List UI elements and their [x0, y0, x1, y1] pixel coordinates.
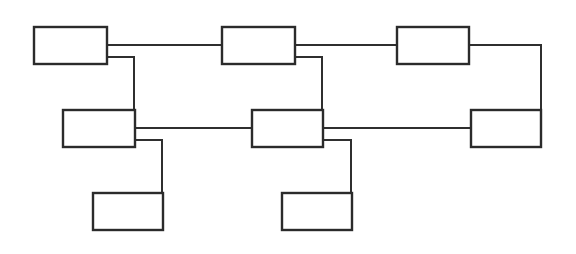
node-rect — [282, 193, 352, 230]
connector-d-g — [135, 140, 162, 193]
node-rect — [222, 27, 295, 64]
connector-c-f — [469, 45, 541, 110]
node-rect — [34, 27, 107, 64]
connector-e-h — [323, 140, 351, 193]
node-rect — [252, 110, 323, 147]
connector-a-d — [107, 57, 134, 110]
node-box-a — [34, 27, 107, 64]
node-box-d — [63, 110, 135, 147]
node-rect — [397, 27, 469, 64]
node-rect — [93, 193, 163, 230]
node-box-h — [282, 193, 352, 230]
node-rect — [471, 110, 541, 147]
connector-b-e — [295, 57, 322, 110]
node-box-g — [93, 193, 163, 230]
node-box-b — [222, 27, 295, 64]
node-rect — [63, 110, 135, 147]
node-box-c — [397, 27, 469, 64]
node-box-f — [471, 110, 541, 147]
node-box-e — [252, 110, 323, 147]
block-diagram — [0, 0, 576, 254]
